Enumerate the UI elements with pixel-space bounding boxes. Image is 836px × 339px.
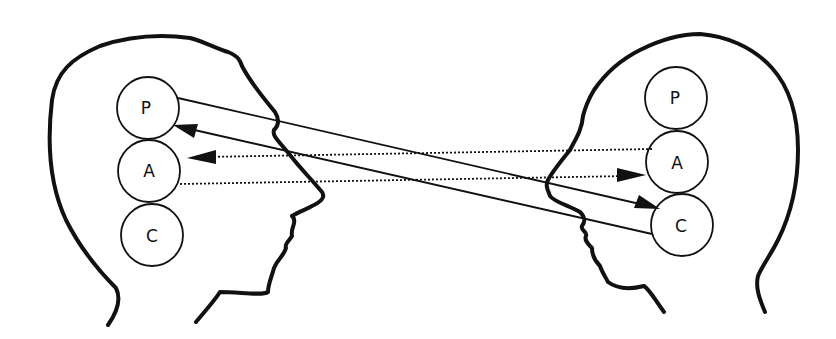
arrowhead-to-right-child: [634, 195, 660, 209]
right-child-ego-state: C: [651, 194, 713, 256]
left-child-ego-state: C: [121, 204, 183, 266]
right-parent-ego-state: P: [645, 67, 707, 129]
arrowhead-to-right-adult: [617, 168, 646, 182]
right-adult-ego-state: A: [646, 131, 708, 193]
left-child-label: C: [146, 226, 158, 246]
left-adult-ego-state: A: [118, 140, 180, 202]
arrowhead-to-left-adult: [187, 150, 216, 164]
left-adult-label: A: [143, 161, 155, 181]
arrowhead-to-left-parent: [173, 124, 198, 138]
left-head-outline: [50, 36, 324, 325]
transaction-right-child-to-left-parent: [190, 129, 652, 234]
right-parent-label: P: [670, 88, 680, 108]
left-parent-label: P: [141, 98, 151, 118]
right-child-label: C: [675, 216, 687, 236]
right-adult-label: A: [671, 153, 683, 173]
diagram-canvas: P A C P A C: [0, 0, 836, 339]
left-parent-ego-state: P: [117, 77, 179, 139]
